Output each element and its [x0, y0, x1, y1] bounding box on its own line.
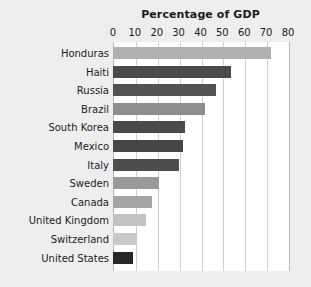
category-label: Mexico	[0, 141, 113, 152]
gdp-bar-chart: Percentage of GDP 01020304050607080 Hond…	[0, 0, 311, 287]
category-label: Honduras	[0, 48, 113, 59]
category-label: South Korea	[0, 122, 113, 133]
category-label: Switzerland	[0, 234, 113, 245]
category-label: Russia	[0, 85, 113, 96]
category-label: United Kingdom	[0, 215, 113, 226]
category-label: United States	[0, 253, 113, 264]
category-label: Haiti	[0, 67, 113, 78]
category-labels: HondurasHaitiRussiaBrazilSouth KoreaMexi…	[0, 0, 311, 287]
category-label: Italy	[0, 160, 113, 171]
category-label: Brazil	[0, 104, 113, 115]
category-label: Canada	[0, 197, 113, 208]
category-label: Sweden	[0, 178, 113, 189]
